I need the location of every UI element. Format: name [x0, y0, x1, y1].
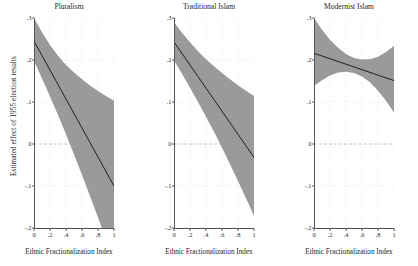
y-tick-mark — [312, 60, 315, 61]
y-tick-label: .2 — [167, 57, 172, 63]
x-tick-label: .4 — [344, 232, 349, 238]
y-tick-label: -.2 — [165, 225, 172, 231]
y-tick-label: -.2 — [305, 225, 312, 231]
panel-traditional-islam: Traditional Islam.3.2.10-.1-.20.2.4.6.81… — [140, 0, 278, 266]
y-tick-label: -.1 — [25, 183, 32, 189]
y-tick-label: 0 — [308, 141, 311, 147]
x-tick-label: .8 — [236, 232, 241, 238]
y-tick-label: .1 — [167, 99, 172, 105]
figure-panel-chart: Estimated effect of 1955 election result… — [0, 0, 418, 266]
y-tick-mark — [172, 60, 175, 61]
y-tick-label: -.2 — [25, 225, 32, 231]
x-axis-label: Ethnic Fractionalization Index — [280, 248, 418, 256]
plot-svg — [314, 18, 394, 228]
y-tick-mark — [32, 144, 35, 145]
x-tick-label: .6 — [80, 232, 85, 238]
x-tick-label: 0 — [32, 232, 35, 238]
x-axis-line — [314, 228, 394, 229]
x-tick-label: 0 — [172, 232, 175, 238]
panel-title: Modernist Islam — [280, 2, 418, 11]
panel-title: Traditional Islam — [140, 2, 278, 11]
y-tick-mark — [32, 186, 35, 187]
y-tick-label: 0 — [168, 141, 171, 147]
y-tick-mark — [312, 186, 315, 187]
y-tick-mark — [172, 186, 175, 187]
y-tick-mark — [32, 60, 35, 61]
x-axis-line — [174, 228, 254, 229]
y-axis-line — [34, 18, 35, 228]
plot-area: .3.2.10-.1-.20.2.4.6.81 — [34, 18, 114, 228]
y-tick-mark — [172, 144, 175, 145]
y-tick-label: .3 — [167, 15, 172, 21]
x-tick-label: .8 — [376, 232, 381, 238]
y-tick-label: .2 — [27, 57, 32, 63]
y-tick-mark — [32, 18, 35, 19]
x-tick-label: 1 — [112, 232, 115, 238]
y-axis-line — [174, 18, 175, 228]
y-tick-label: .1 — [27, 99, 32, 105]
y-tick-label: .3 — [307, 15, 312, 21]
y-tick-mark — [312, 18, 315, 19]
x-tick-label: .6 — [220, 232, 225, 238]
x-tick-label: 0 — [312, 232, 315, 238]
x-tick-label: .4 — [204, 232, 209, 238]
x-tick-label: .2 — [328, 232, 333, 238]
y-tick-label: .3 — [27, 15, 32, 21]
x-axis-label: Ethnic Fractionalization Index — [140, 248, 278, 256]
confidence-band — [174, 22, 254, 216]
plot-svg — [34, 18, 114, 228]
confidence-band — [314, 18, 394, 113]
confidence-band — [34, 18, 114, 228]
panel-pluralism: Pluralism.3.2.10-.1-.20.2.4.6.81Ethnic F… — [0, 0, 138, 266]
y-axis-line — [314, 18, 315, 228]
panel-title: Pluralism — [0, 2, 138, 11]
x-axis-line — [34, 228, 114, 229]
y-tick-label: -.1 — [305, 183, 312, 189]
plot-area: .3.2.10-.1-.20.2.4.6.81 — [314, 18, 394, 228]
x-axis-label: Ethnic Fractionalization Index — [0, 248, 138, 256]
y-tick-mark — [172, 102, 175, 103]
plot-area: .3.2.10-.1-.20.2.4.6.81 — [174, 18, 254, 228]
x-tick-label: .2 — [188, 232, 193, 238]
y-tick-mark — [172, 18, 175, 19]
plot-svg — [174, 18, 254, 228]
y-tick-label: 0 — [28, 141, 31, 147]
y-tick-mark — [312, 102, 315, 103]
panel-modernist-islam: Modernist Islam.3.2.10-.1-.20.2.4.6.81Et… — [280, 0, 418, 266]
y-tick-label: .1 — [307, 99, 312, 105]
y-tick-label: -.1 — [165, 183, 172, 189]
x-tick-label: .8 — [96, 232, 101, 238]
x-tick-label: 1 — [392, 232, 395, 238]
x-tick-label: .6 — [360, 232, 365, 238]
x-tick-label: .2 — [48, 232, 53, 238]
x-tick-label: .4 — [64, 232, 69, 238]
y-tick-mark — [312, 144, 315, 145]
y-tick-mark — [32, 102, 35, 103]
y-tick-label: .2 — [307, 57, 312, 63]
x-tick-label: 1 — [252, 232, 255, 238]
